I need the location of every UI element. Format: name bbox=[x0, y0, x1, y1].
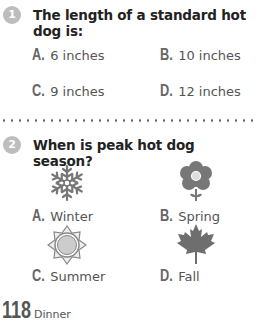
question-number-badge: 1 bbox=[3, 6, 21, 24]
option-text: 10 inches bbox=[178, 48, 241, 63]
answer-option[interactable]: A. 6 inches bbox=[32, 45, 105, 65]
option-letter: C. bbox=[32, 266, 45, 286]
answer-option[interactable]: D. 12 inches bbox=[160, 81, 241, 101]
flower-icon bbox=[179, 160, 213, 202]
page-number: 118 bbox=[2, 296, 31, 324]
answer-option[interactable]: A. Winter bbox=[32, 206, 93, 226]
option-text: Summer bbox=[50, 269, 105, 284]
option-text: 12 inches bbox=[178, 84, 241, 99]
question-number-badge: 2 bbox=[3, 136, 21, 154]
option-letter: A. bbox=[32, 206, 45, 226]
snowflake-icon bbox=[47, 163, 87, 203]
question-text: The length of a standard hot dog is: bbox=[33, 7, 257, 39]
answer-option[interactable]: D. Fall bbox=[160, 266, 200, 286]
option-text: Fall bbox=[178, 269, 199, 284]
option-text: 9 inches bbox=[50, 84, 104, 99]
answer-option[interactable]: B. 10 inches bbox=[160, 45, 241, 65]
option-letter: D. bbox=[160, 266, 173, 286]
option-letter: B. bbox=[160, 206, 173, 226]
option-letter: B. bbox=[160, 45, 173, 65]
answer-option[interactable]: C. Summer bbox=[32, 266, 105, 286]
dotted-divider bbox=[0, 119, 257, 122]
option-letter: A. bbox=[32, 45, 45, 65]
answer-option[interactable]: C. 9 inches bbox=[32, 81, 105, 101]
option-letter: C. bbox=[32, 81, 45, 101]
sun-icon bbox=[47, 225, 87, 265]
option-text: 6 inches bbox=[50, 48, 104, 63]
maple-leaf-icon bbox=[174, 222, 218, 266]
option-letter: D. bbox=[160, 81, 173, 101]
section-title: Dinner bbox=[34, 308, 71, 321]
option-text: Winter bbox=[50, 209, 93, 224]
